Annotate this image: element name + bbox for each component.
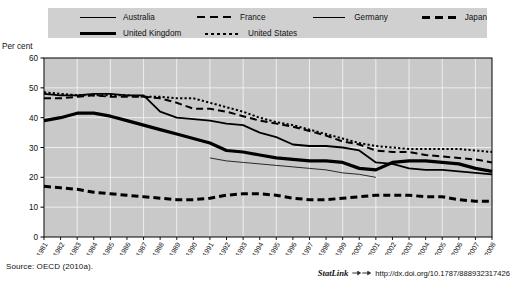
x-tick-label: 1994 <box>251 241 265 255</box>
legend-label-united-states: United States <box>248 29 297 38</box>
legend-row-1: Australia France Germany Japan <box>48 11 487 24</box>
legend-label-japan: Japan <box>465 13 487 22</box>
y-tick-label: 20 <box>29 173 39 182</box>
x-tick-label: 1996 <box>284 241 298 255</box>
x-tick-label: 1999 <box>334 241 348 255</box>
x-tick-label: 1991 <box>201 241 215 255</box>
legend-label-germany: Germany <box>354 13 388 22</box>
statlink-arrow-icon <box>352 270 371 277</box>
x-tick-label: 1992 <box>218 241 232 255</box>
x-tick-label: 2007 <box>466 241 480 255</box>
legend-line-icon-france <box>197 13 233 23</box>
x-tick-label: 1983 <box>68 241 82 255</box>
legend-line-icon-germany <box>311 13 347 23</box>
x-tick-label: 1988 <box>151 241 165 255</box>
x-tick-label: 2003 <box>400 241 414 255</box>
legend-item-france: France <box>197 13 311 23</box>
cropped-title <box>0 0 514 7</box>
y-tick-label: 40 <box>29 114 39 123</box>
statlink-url[interactable]: http://dx.doi.org/10.1787/888932317426 <box>375 269 510 278</box>
figure-page: Australia France Germany Japan United Ki… <box>0 0 514 289</box>
x-tick-label: 2001 <box>367 241 381 255</box>
y-tick-label: 0 <box>33 233 38 242</box>
x-tick-label: 1981 <box>35 241 49 255</box>
legend-line-icon-japan <box>422 13 458 23</box>
legend-item-united-states: United States <box>205 29 327 39</box>
x-tick-label: 1997 <box>300 241 314 255</box>
x-tick-label: 1985 <box>101 241 115 255</box>
chart-area: 0102030405060198119821983198419851986198… <box>0 50 514 255</box>
legend-label-australia: Australia <box>123 13 155 22</box>
line-chart: 0102030405060198119821983198419851986198… <box>0 50 514 255</box>
x-tick-label: 2006 <box>450 241 464 255</box>
legend-line-icon-australia <box>80 13 116 23</box>
legend-item-australia: Australia <box>80 13 197 23</box>
source-note: Source: OECD (2010a). <box>6 262 93 271</box>
chart-legend: Australia France Germany Japan United Ki… <box>48 8 487 38</box>
x-tick-label: 1995 <box>267 241 281 255</box>
x-tick-label: 1989 <box>168 241 182 255</box>
x-tick-label: 1987 <box>135 241 149 255</box>
y-tick-label: 10 <box>29 203 39 212</box>
legend-label-united-kingdom: United Kingdom <box>123 29 181 38</box>
x-tick-label: 1998 <box>317 241 331 255</box>
statlink-word: StatLink <box>318 268 349 278</box>
x-tick-label: 1984 <box>85 241 99 255</box>
legend-row-2: United Kingdom United States <box>48 27 487 40</box>
x-tick-label: 1990 <box>184 241 198 255</box>
legend-label-france: France <box>240 13 265 22</box>
statlink[interactable]: StatLink http://dx.doi.org/10.1787/88893… <box>318 268 510 278</box>
x-tick-label: 2002 <box>383 241 397 255</box>
y-tick-label: 60 <box>29 54 39 63</box>
legend-item-united-kingdom: United Kingdom <box>80 29 205 39</box>
x-tick-label: 2004 <box>417 241 431 255</box>
x-tick-label: 1986 <box>118 241 132 255</box>
y-tick-label: 50 <box>29 84 39 93</box>
y-tick-label: 30 <box>29 144 39 153</box>
x-tick-label: 2008 <box>483 241 497 255</box>
legend-line-icon-united-states <box>205 29 241 39</box>
legend-item-japan: Japan <box>422 13 487 23</box>
cropped-title-text <box>256 0 259 4</box>
x-tick-label: 1993 <box>234 241 248 255</box>
legend-line-icon-united-kingdom <box>80 29 116 39</box>
x-tick-label: 2000 <box>350 241 364 255</box>
legend-item-germany: Germany <box>311 13 421 23</box>
x-tick-label: 2005 <box>433 241 447 255</box>
x-tick-label: 1982 <box>52 241 66 255</box>
